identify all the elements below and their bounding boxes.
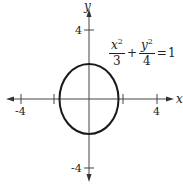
fraction-x: x2 3 (109, 38, 125, 68)
eq-y: y (141, 38, 148, 52)
x-tick-label-pos4: 4 (153, 106, 160, 117)
x-axis-label: x (176, 93, 183, 105)
eq-x-exp: 2 (118, 37, 123, 46)
eq-y-den: 4 (143, 54, 151, 68)
eq-y-exp: 2 (148, 37, 153, 46)
eq-rhs: 1 (168, 46, 176, 60)
x-axis-right-arrow-icon (166, 97, 174, 102)
eq-plus: + (127, 46, 137, 60)
equation-label: x2 3 + y2 4 = 1 (108, 38, 176, 68)
plot-area (0, 0, 183, 184)
x-tick-label-neg4: -4 (15, 106, 26, 117)
eq-x: x (111, 38, 118, 52)
y-axis-down-arrow-icon (87, 174, 92, 182)
eq-equals: = (157, 46, 167, 60)
y-tick-label-pos4: 4 (75, 25, 82, 36)
eq-x-den: 3 (113, 54, 121, 68)
y-tick-label-neg4: -4 (71, 163, 82, 174)
y-axis-label: y (84, 0, 91, 12)
fraction-y: y2 4 (139, 38, 155, 68)
x-axis-left-arrow-icon (6, 97, 14, 102)
ellipse-graph: y x -4 4 4 -4 x2 3 + y2 4 = 1 (0, 0, 183, 184)
